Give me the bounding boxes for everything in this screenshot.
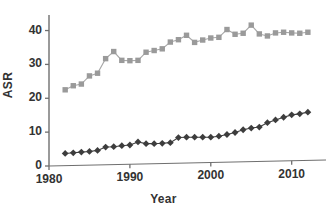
y-axis-tick-label: 40 (6, 23, 42, 37)
data-point-diamond (78, 149, 85, 156)
data-point-diamond (232, 129, 239, 136)
series-lower-series (62, 109, 311, 157)
data-point-diamond (86, 148, 93, 155)
data-point-square (257, 31, 262, 36)
data-point-diamond (135, 139, 142, 146)
data-point-diamond (272, 117, 279, 124)
data-point-diamond (143, 140, 150, 147)
data-point-diamond (183, 134, 190, 141)
data-point-square (62, 87, 67, 92)
data-point-diamond (288, 111, 295, 118)
data-point-diamond (240, 126, 247, 133)
data-point-square (232, 32, 237, 37)
x-axis-tick-label: 2010 (268, 167, 316, 181)
data-point-diamond (151, 140, 158, 147)
y-axis-tick-label: 10 (6, 124, 42, 138)
data-point-square (160, 46, 165, 51)
series-line (65, 112, 308, 153)
data-point-diamond (70, 149, 77, 156)
data-point-square (119, 58, 124, 63)
chart-container: 010203040 1980199020002010 ASR Year (0, 0, 327, 214)
data-point-square (192, 40, 197, 45)
data-point-square (208, 35, 213, 40)
x-axis-tick-label: 1990 (106, 170, 154, 184)
data-point-diamond (102, 144, 109, 151)
data-point-square (151, 48, 156, 53)
data-point-diamond (62, 150, 69, 157)
data-point-square (71, 83, 76, 88)
data-point-diamond (110, 143, 117, 150)
data-point-square (95, 71, 100, 76)
data-point-diamond (296, 110, 303, 117)
series-upper-series (62, 22, 310, 92)
data-point-diamond (175, 134, 182, 141)
data-point-square (184, 33, 189, 38)
x-axis-tick-label: 2000 (187, 168, 235, 182)
data-point-square (143, 50, 148, 55)
data-point-square (249, 22, 254, 27)
data-point-diamond (127, 142, 134, 149)
data-point-diamond (215, 133, 222, 140)
data-point-diamond (248, 125, 255, 132)
data-point-diamond (207, 134, 214, 141)
data-point-diamond (118, 142, 125, 149)
data-point-square (240, 31, 245, 36)
y-axis-tick-label: 0 (6, 158, 42, 172)
data-point-square (224, 27, 229, 32)
data-point-square (305, 30, 310, 35)
data-point-square (176, 37, 181, 42)
data-point-diamond (264, 119, 271, 126)
x-axis-tick-label: 1980 (25, 172, 73, 186)
data-point-square (273, 30, 278, 35)
axes-group (45, 15, 326, 170)
x-axis-title: Year (0, 192, 327, 206)
data-point-diamond (280, 114, 287, 121)
data-point-square (127, 58, 132, 63)
data-point-diamond (224, 131, 231, 138)
data-point-diamond (94, 147, 101, 154)
data-point-square (111, 49, 116, 54)
data-point-square (200, 37, 205, 42)
data-point-square (79, 81, 84, 86)
data-point-diamond (159, 140, 166, 147)
data-point-square (103, 56, 108, 61)
data-point-square (289, 30, 294, 35)
data-point-diamond (167, 139, 174, 146)
data-point-square (265, 33, 270, 38)
data-point-square (87, 73, 92, 78)
data-point-diamond (199, 134, 206, 141)
y-axis-title: ASR (1, 63, 15, 107)
data-point-square (135, 58, 140, 63)
data-point-diamond (191, 134, 198, 141)
data-point-square (216, 35, 221, 40)
x-axis-line (49, 160, 326, 166)
data-point-diamond (304, 109, 311, 116)
data-point-square (168, 39, 173, 44)
data-point-diamond (256, 124, 263, 131)
data-point-square (281, 30, 286, 35)
data-point-square (297, 31, 302, 36)
series-group (62, 22, 311, 156)
